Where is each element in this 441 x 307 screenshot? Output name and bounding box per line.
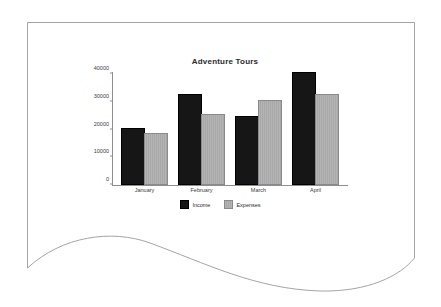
bar-expenses[interactable]	[315, 94, 339, 185]
bar-income[interactable]	[292, 72, 316, 185]
legend-label-income: Income	[192, 202, 210, 208]
y-tick-label-40000: 40000	[94, 65, 109, 71]
chart-title: Adventure Tours	[110, 57, 340, 66]
y-tick-mark-30000	[110, 100, 113, 101]
bar-group: April	[290, 74, 341, 185]
bar-expenses[interactable]	[201, 114, 225, 185]
plot-region: 0 10000 20000 30000 40000	[113, 74, 341, 185]
x-axis-line	[112, 185, 348, 186]
y-tick-mark-40000	[110, 73, 113, 74]
bar-income[interactable]	[121, 128, 145, 186]
x-tick-label-march: March	[233, 187, 284, 193]
legend-swatch-expenses-icon	[224, 200, 233, 209]
y-tick-label-30000: 30000	[94, 93, 109, 99]
legend-label-expenses: Expenses	[236, 202, 260, 208]
bar-group: January	[119, 74, 170, 185]
legend-swatch-income-icon	[180, 200, 189, 209]
bar-group: March	[233, 74, 284, 185]
y-tick-label-10000: 10000	[94, 148, 109, 154]
chart-legend: Income Expenses	[0, 200, 441, 209]
x-tick-label-february: February	[176, 187, 227, 193]
bar-income[interactable]	[178, 94, 202, 185]
x-tick-label-april: April	[290, 187, 341, 193]
x-tick-label-january: January	[119, 187, 170, 193]
legend-item-income[interactable]: Income	[180, 200, 210, 209]
bar-expenses[interactable]	[258, 100, 282, 185]
y-tick-mark-10000	[110, 156, 113, 157]
screenshot-canvas: Adventure Tours 0 10000 20000 300	[0, 0, 441, 307]
bar-chart: Adventure Tours 0 10000 20000 300	[0, 0, 441, 307]
y-tick-mark-0	[110, 184, 113, 185]
legend-item-expenses[interactable]: Expenses	[224, 200, 260, 209]
y-tick-label-0: 0	[106, 176, 109, 182]
bar-group: February	[176, 74, 227, 185]
y-tick-label-20000: 20000	[94, 121, 109, 127]
y-tick-mark-20000	[110, 128, 113, 129]
bar-expenses[interactable]	[144, 133, 168, 185]
bar-income[interactable]	[235, 116, 259, 185]
